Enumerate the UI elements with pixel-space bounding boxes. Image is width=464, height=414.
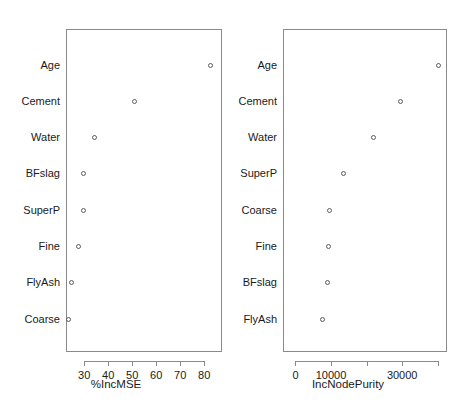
- x-axis-line: [84, 361, 204, 362]
- y-axis-tick-label: FlyAsh: [26, 276, 60, 288]
- data-point: [69, 280, 74, 285]
- y-axis-tick-label: Water: [31, 131, 60, 143]
- x-axis-tick: [367, 361, 368, 366]
- x-axis-tick: [438, 361, 439, 366]
- plot-area-left: [67, 30, 221, 351]
- data-point: [208, 63, 213, 68]
- y-axis-tick-label: Coarse: [242, 204, 277, 216]
- y-axis-tick-label: Cement: [21, 95, 60, 107]
- plot-box-right: [283, 29, 447, 352]
- panel-incmse: AgeCementWaterBFslagSuperPFineFlyAshCoar…: [0, 0, 232, 414]
- y-axis-tick-label: Fine: [39, 240, 60, 252]
- var-imp-plot-figure: AgeCementWaterBFslagSuperPFineFlyAshCoar…: [0, 0, 464, 414]
- x-axis-title-right: IncNodePurity: [232, 378, 464, 391]
- data-point: [325, 280, 330, 285]
- y-axis-tick-label: Age: [257, 59, 277, 71]
- data-point: [76, 244, 81, 249]
- x-axis-tick: [180, 361, 181, 366]
- data-point: [92, 135, 97, 140]
- y-axis-tick-label: Coarse: [25, 313, 60, 325]
- y-axis-tick-label: Water: [248, 131, 277, 143]
- data-point: [371, 135, 376, 140]
- y-axis-tick-label: FlyAsh: [243, 313, 277, 325]
- data-point: [398, 99, 403, 104]
- x-axis-tick: [295, 361, 296, 366]
- data-point: [320, 317, 325, 322]
- plot-box-left: [66, 29, 222, 352]
- y-axis-tick-label: Cement: [238, 95, 277, 107]
- x-axis-tick: [132, 361, 133, 366]
- x-axis-tick: [156, 361, 157, 366]
- y-axis-tick-label: Age: [40, 59, 60, 71]
- plot-area-right: [284, 30, 446, 351]
- x-axis-title-left: %IncMSE: [0, 378, 232, 391]
- y-axis-tick-label: BFslag: [243, 276, 277, 288]
- data-point: [132, 99, 137, 104]
- data-point: [326, 244, 331, 249]
- x-axis-tick: [204, 361, 205, 366]
- data-point: [66, 317, 71, 322]
- y-axis-tick-label: SuperP: [23, 204, 60, 216]
- y-axis-tick-label: BFslag: [26, 167, 60, 179]
- x-axis-tick: [331, 361, 332, 366]
- y-axis-tick-label: SuperP: [240, 167, 277, 179]
- data-point: [327, 208, 332, 213]
- panel-incnodepurity: AgeCementWaterSuperPCoarseFineBFslagFlyA…: [232, 0, 464, 414]
- x-axis-tick: [402, 361, 403, 366]
- data-point: [81, 208, 86, 213]
- x-axis-tick: [84, 361, 85, 366]
- data-point: [436, 63, 441, 68]
- data-point: [341, 171, 346, 176]
- x-axis-tick: [108, 361, 109, 366]
- y-axis-tick-label: Fine: [256, 240, 277, 252]
- data-point: [81, 171, 86, 176]
